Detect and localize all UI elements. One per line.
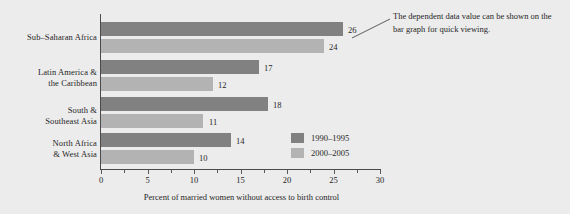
bar-1990-1995 bbox=[101, 60, 259, 74]
bar-value-label: 11 bbox=[209, 117, 217, 127]
bar-value-label: 14 bbox=[236, 136, 245, 146]
x-axis-tick bbox=[148, 170, 149, 174]
x-axis-tick bbox=[380, 170, 381, 174]
category-label: Latin America & the Caribbean bbox=[38, 67, 97, 88]
legend-item: 1990–1995 bbox=[291, 131, 349, 144]
legend-swatch-icon bbox=[291, 133, 304, 143]
bar-1990-1995 bbox=[101, 133, 231, 147]
x-axis-title: Percent of married women without access … bbox=[101, 192, 382, 202]
bar-value-label: 10 bbox=[199, 153, 208, 163]
bar-2000-2005 bbox=[101, 77, 213, 91]
x-axis-tick-label: 0 bbox=[99, 175, 103, 185]
bar-2000-2005 bbox=[101, 114, 203, 128]
x-axis-tick bbox=[241, 170, 242, 174]
bar-2000-2005 bbox=[101, 150, 194, 164]
bar-value-label: 24 bbox=[329, 42, 338, 52]
legend-label: 1990–1995 bbox=[311, 133, 349, 143]
legend-label: 2000–2005 bbox=[311, 148, 349, 158]
x-axis-minor-tick bbox=[171, 170, 172, 173]
x-axis-minor-tick bbox=[217, 170, 218, 173]
legend-swatch-icon bbox=[291, 148, 304, 158]
y-axis-line bbox=[100, 14, 101, 170]
bar-1990-1995 bbox=[101, 22, 343, 36]
bar-value-label: 17 bbox=[264, 63, 273, 73]
x-axis-tick bbox=[334, 170, 335, 174]
x-axis-tick-label: 5 bbox=[145, 175, 149, 185]
x-axis-tick-label: 10 bbox=[190, 175, 199, 185]
chart-legend: 1990–1995 2000–2005 bbox=[291, 131, 349, 161]
x-axis-minor-tick bbox=[310, 170, 311, 173]
bar-chart-figure: Sub–Saharan Africa Latin America & the C… bbox=[0, 0, 570, 214]
x-axis-tick bbox=[287, 170, 288, 174]
x-axis-tick bbox=[194, 170, 195, 174]
bar-2000-2005 bbox=[101, 39, 324, 53]
x-axis-minor-tick bbox=[124, 170, 125, 173]
bar-value-label: 26 bbox=[348, 25, 357, 35]
x-axis-minor-tick bbox=[357, 170, 358, 173]
x-axis-tick-label: 30 bbox=[376, 175, 385, 185]
category-label: South & Southeast Asia bbox=[45, 105, 97, 126]
bar-1990-1995 bbox=[101, 97, 268, 111]
legend-item: 2000–2005 bbox=[291, 146, 349, 159]
category-label: Sub–Saharan Africa bbox=[27, 32, 97, 43]
bar-value-label: 18 bbox=[273, 100, 282, 110]
x-axis-tick bbox=[101, 170, 102, 174]
annotation-text: The dependent data value can be shown on… bbox=[393, 10, 561, 36]
x-axis-tick-label: 25 bbox=[329, 175, 338, 185]
category-label: North Africa & West Asia bbox=[53, 138, 97, 159]
x-axis-minor-tick bbox=[264, 170, 265, 173]
x-axis-tick-label: 15 bbox=[236, 175, 245, 185]
bar-value-label: 12 bbox=[218, 80, 227, 90]
x-axis-tick-label: 20 bbox=[283, 175, 292, 185]
